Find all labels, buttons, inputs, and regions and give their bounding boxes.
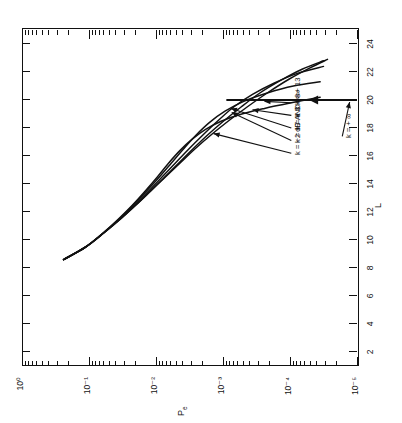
x-tick-label: 8 bbox=[366, 266, 375, 271]
y-axis-title: Pe bbox=[176, 406, 188, 416]
x-tick-label: 16 bbox=[366, 151, 375, 160]
annotation-arrowhead bbox=[253, 108, 259, 113]
curve-label: k = + 13 bbox=[294, 77, 302, 104]
x-tick-label: 10 bbox=[366, 235, 375, 244]
x-tick-label: 2 bbox=[366, 350, 375, 355]
x-axis-title: L bbox=[373, 203, 383, 208]
x-tick-label: 18 bbox=[366, 123, 375, 132]
annotation-arrowhead bbox=[265, 99, 271, 104]
x-tick-label: 22 bbox=[366, 67, 375, 76]
y-tick-label: 10⁻² bbox=[150, 377, 159, 394]
annotation-leader-line bbox=[214, 134, 292, 154]
asymptote-label: k = + ∞ bbox=[345, 114, 353, 138]
annotation-arrowhead bbox=[231, 108, 238, 113]
asymptote-arrowhead bbox=[309, 96, 318, 105]
x-tick-label: 4 bbox=[366, 322, 375, 327]
y-tick-label: 10⁻⁵ bbox=[351, 377, 360, 395]
y-tick-label: 10⁻⁴ bbox=[284, 377, 293, 395]
asymptote-leader-arrowhead bbox=[346, 102, 351, 108]
x-tick-label: 24 bbox=[366, 39, 375, 48]
y-axis-title-subscript: e bbox=[181, 406, 188, 410]
x-tick-label: 20 bbox=[366, 95, 375, 104]
annotation-arrowhead bbox=[214, 133, 221, 138]
figure-canvas: 24681012141618202224 10⁰10⁻¹10⁻²10⁻³10⁻⁴… bbox=[0, 0, 402, 423]
x-tick-label: 6 bbox=[366, 294, 375, 299]
y-axis-title-base: P bbox=[176, 410, 186, 416]
y-tick-label: 10⁻¹ bbox=[83, 377, 92, 394]
x-tick-label: 12 bbox=[366, 207, 375, 216]
x-tick-label: 14 bbox=[366, 179, 375, 188]
annotation-leader-line bbox=[232, 113, 292, 141]
y-tick-label: 10⁻³ bbox=[217, 377, 226, 394]
annotation-leader-layer bbox=[22, 30, 357, 366]
y-tick-label: 10⁰ bbox=[16, 377, 25, 390]
